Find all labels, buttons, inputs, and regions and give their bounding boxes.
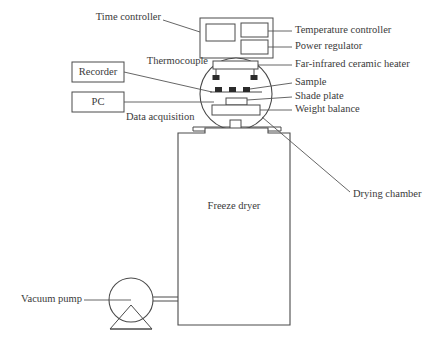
weight-balance-label: Weight balance xyxy=(295,103,360,114)
sample-left xyxy=(215,87,222,92)
thermocouple-label: Thermocouple xyxy=(147,55,209,66)
thermocouple-probe-right xyxy=(251,75,258,80)
vacuum-pump-label: Vacuum pump xyxy=(21,293,82,304)
vacuum-pump-group xyxy=(109,278,178,329)
power-regulator-label: Power regulator xyxy=(295,40,363,51)
shade-plate-label: Shade plate xyxy=(295,90,344,101)
freeze-dryer-group: Freeze dryer xyxy=(178,128,290,325)
freeze-dryer-label: Freeze dryer xyxy=(208,200,261,211)
far-infrared-ceramic-heater xyxy=(213,61,258,69)
weight-balance xyxy=(212,105,260,115)
temperature-controller-display[interactable] xyxy=(241,23,268,37)
far-infrared-ceramic-heater-label: Far-infrared ceramic heater xyxy=(295,58,410,69)
shade-plate xyxy=(226,98,247,105)
time-controller-display[interactable] xyxy=(206,24,235,41)
freeze-dryer-schematic: Freeze dryer Recorder PC xyxy=(0,0,439,363)
instrument-boxes-group: Recorder PC xyxy=(72,62,124,112)
data-acquisition-label: Data acquisition xyxy=(126,111,195,122)
sample-label: Sample xyxy=(295,76,327,87)
temperature-controller-label: Temperature controller xyxy=(295,24,392,35)
sample-center xyxy=(229,87,236,92)
leader-time-controller xyxy=(163,20,200,32)
thermocouple-probe-left xyxy=(213,75,220,80)
recorder-label: Recorder xyxy=(79,66,118,77)
diagram-canvas: Freeze dryer Recorder PC xyxy=(0,0,439,363)
controller-panel-group xyxy=(200,18,273,58)
leader-thermocouple xyxy=(124,72,212,92)
time-controller-label: Time controller xyxy=(96,11,162,22)
power-regulator-display[interactable] xyxy=(241,40,268,54)
drying-chamber-group xyxy=(200,58,272,130)
sample-right xyxy=(243,87,250,92)
drying-chamber-label: Drying chamber xyxy=(353,188,422,199)
pc-label: PC xyxy=(92,96,105,107)
freeze-dryer-vessel xyxy=(178,128,290,325)
